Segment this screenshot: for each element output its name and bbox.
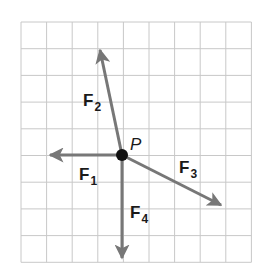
point-p	[116, 149, 128, 161]
label-f2: F2	[83, 91, 101, 114]
label-f1: F1	[79, 165, 97, 188]
label-p: P	[130, 135, 142, 154]
vectors	[50, 50, 221, 258]
force-diagram: P F2 F1 F3 F4	[0, 0, 264, 271]
label-f4: F4	[130, 203, 148, 226]
label-f3: F3	[179, 158, 197, 181]
vector-f3	[122, 155, 221, 205]
